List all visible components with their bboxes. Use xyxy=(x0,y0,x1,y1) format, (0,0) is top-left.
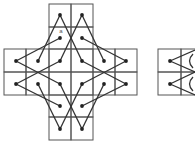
cross-grid-diagram: a xyxy=(0,0,195,144)
node-dot xyxy=(80,36,84,40)
node-dot xyxy=(102,59,106,63)
node-dot xyxy=(58,36,62,40)
node-dot xyxy=(36,82,40,86)
node-dot xyxy=(168,82,172,86)
node-dot xyxy=(58,59,62,63)
node-dot xyxy=(14,59,18,63)
connector-arc xyxy=(190,54,194,68)
point-label: a xyxy=(59,28,63,34)
node-dot xyxy=(36,59,40,63)
node-dot xyxy=(58,127,62,131)
node-dot xyxy=(102,82,106,86)
node-dot xyxy=(80,82,84,86)
partial-figure-right xyxy=(158,49,195,95)
connector-arc xyxy=(190,77,194,91)
node-dot xyxy=(58,13,62,17)
node-dot xyxy=(14,82,18,86)
node-dot xyxy=(124,59,128,63)
node-dot xyxy=(80,59,84,63)
node-dot xyxy=(80,13,84,17)
node-dot xyxy=(80,127,84,131)
node-dot xyxy=(58,82,62,86)
node-dot xyxy=(80,104,84,108)
node-dot xyxy=(124,82,128,86)
main-cross-figure: a xyxy=(4,4,137,140)
node-dot xyxy=(58,104,62,108)
node-dot xyxy=(168,59,172,63)
diagram-svg: a xyxy=(0,0,195,144)
